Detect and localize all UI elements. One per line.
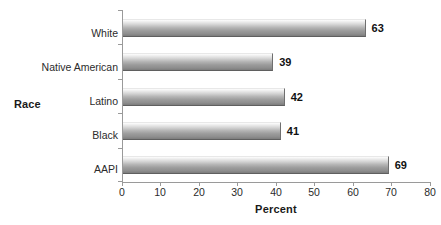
x-axis-tick-label: 30 bbox=[231, 186, 243, 198]
y-axis-tick-label: Latino bbox=[30, 95, 118, 107]
bar[interactable] bbox=[123, 122, 281, 140]
bar[interactable] bbox=[123, 88, 285, 106]
x-axis-tick-label: 50 bbox=[308, 186, 320, 198]
bar-value-label: 69 bbox=[395, 159, 407, 171]
x-axis-tick-label: 20 bbox=[193, 186, 205, 198]
y-axis-tick bbox=[118, 113, 122, 114]
y-axis-tick-label: White bbox=[30, 27, 118, 39]
x-axis-tick-label: 70 bbox=[385, 186, 397, 198]
y-axis-tick bbox=[118, 148, 122, 149]
plot-area: 63 39 42 41 69 bbox=[122, 10, 430, 182]
y-axis-tick bbox=[118, 10, 122, 11]
y-axis-tick-label: Black bbox=[30, 129, 118, 141]
x-axis-tick-label: 60 bbox=[347, 186, 359, 198]
bar-chart: Race White Native American Latino Black … bbox=[0, 0, 441, 225]
y-axis-tick bbox=[118, 79, 122, 80]
x-axis-tick-label: 80 bbox=[424, 186, 436, 198]
bar-value-label: 42 bbox=[291, 91, 303, 103]
y-axis-category-labels: White Native American Latino Black AAPI bbox=[30, 10, 118, 182]
y-axis-tick-label: Native American bbox=[30, 61, 118, 73]
bar-value-label: 41 bbox=[287, 125, 299, 137]
x-axis-title: Percent bbox=[122, 203, 430, 215]
bar[interactable] bbox=[123, 156, 389, 174]
x-axis-tick-labels: 0 10 20 30 40 50 60 70 80 bbox=[122, 186, 441, 200]
x-axis-tick-label: 10 bbox=[154, 186, 166, 198]
x-axis-tick-label: 40 bbox=[270, 186, 282, 198]
y-axis-tick-label: AAPI bbox=[30, 163, 118, 175]
bar-value-label: 39 bbox=[279, 56, 291, 68]
bar[interactable] bbox=[123, 53, 273, 71]
bar-value-label: 63 bbox=[372, 22, 384, 34]
bar[interactable] bbox=[123, 19, 366, 37]
y-axis-tick bbox=[118, 44, 122, 45]
x-axis-tick-label: 0 bbox=[119, 186, 125, 198]
